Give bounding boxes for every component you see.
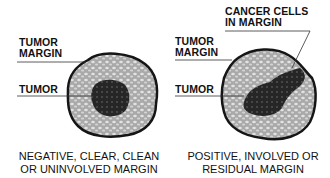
label-tumor-right: TUMOR (175, 84, 214, 95)
label-tumor-margin-right: TUMORMARGIN (175, 36, 218, 58)
label-tumor-margin-left: TUMORMARGIN (19, 37, 62, 59)
label-cancer-cells: CANCER CELLSIN MARGIN (225, 6, 308, 28)
caption-negative-margin: NEGATIVE, CLEAR, CLEANOR UNINVOLVED MARG… (10, 150, 168, 176)
caption-positive-margin: POSITIVE, INVOLVED ORRESIDUAL MARGIN (178, 150, 328, 176)
label-tumor-left: TUMOR (19, 84, 58, 95)
